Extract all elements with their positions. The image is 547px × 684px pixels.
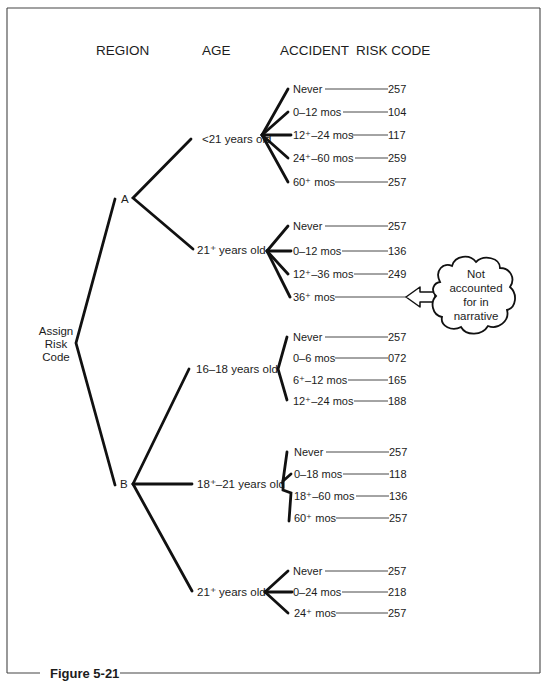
accident-label: 0–24 mos bbox=[293, 586, 342, 598]
leaf-b1-2: 6⁺–12 mos 165 bbox=[293, 374, 406, 386]
age-b1-label: 16–18 years old bbox=[196, 363, 278, 375]
age-b1-branches bbox=[278, 337, 287, 400]
accident-label: 60⁺ mos bbox=[293, 176, 336, 188]
risk-code: 257 bbox=[388, 220, 406, 232]
accident-label: 18⁺–60 mos bbox=[294, 490, 355, 502]
leaf-a2-0: Never 257 bbox=[293, 220, 406, 232]
risk-code: 118 bbox=[389, 468, 407, 480]
risk-code: 117 bbox=[388, 129, 406, 141]
risk-code: 218 bbox=[388, 586, 406, 598]
risk-code: 257 bbox=[388, 607, 406, 619]
risk-code: 257 bbox=[388, 83, 406, 95]
accident-label: 0–12 mos bbox=[293, 106, 342, 118]
risk-code: 072 bbox=[388, 352, 406, 364]
header-risk-code: RISK CODE bbox=[356, 43, 430, 58]
callout-text-line1: Not bbox=[467, 268, 486, 280]
accident-label: 0–6 mos bbox=[293, 352, 336, 364]
age-b2-branches bbox=[283, 452, 291, 521]
risk-code: 257 bbox=[389, 446, 407, 458]
callout-arrow-icon bbox=[406, 287, 435, 307]
leaf-a2-1: 0–12 mos 136 bbox=[293, 245, 406, 257]
risk-code: 188 bbox=[388, 395, 406, 407]
callout-cloud: Not accounted for in narrative bbox=[406, 257, 515, 334]
leaf-b2-1: 0–18 mos 118 bbox=[294, 468, 407, 480]
age-a1-branches bbox=[262, 89, 291, 182]
age-a2-branches bbox=[267, 226, 291, 297]
region-a-branches bbox=[133, 139, 193, 249]
age-b3-branches bbox=[265, 571, 292, 613]
region-b-branches bbox=[133, 369, 192, 591]
root-node: Assign Risk Code bbox=[39, 325, 74, 363]
header-age: AGE bbox=[202, 43, 231, 58]
accident-label: 12⁺–36 mos bbox=[293, 268, 354, 280]
root-label-line2: Risk bbox=[45, 338, 68, 350]
risk-code: 136 bbox=[389, 490, 407, 502]
leaf-b1-1: 0–6 mos 072 bbox=[293, 352, 406, 364]
leaf-b2-2: 18⁺–60 mos 136 bbox=[294, 490, 407, 502]
risk-code: 257 bbox=[388, 565, 406, 577]
accident-label: Never bbox=[293, 220, 323, 232]
accident-label: 12⁺–24 mos bbox=[293, 129, 354, 141]
age-a2-label: 21⁺ years old bbox=[197, 244, 266, 256]
accident-label: Never bbox=[294, 446, 324, 458]
risk-code: 257 bbox=[388, 331, 406, 343]
root-label-line1: Assign bbox=[39, 325, 74, 337]
column-headers: REGION AGE ACCIDENT RISK CODE bbox=[96, 43, 430, 58]
leaf-a2-3: 36⁺ mos bbox=[293, 291, 406, 303]
leaf-a1-2: 12⁺–24 mos 117 bbox=[293, 129, 406, 141]
accident-label: 0–18 mos bbox=[294, 468, 343, 480]
risk-code: 165 bbox=[388, 374, 406, 386]
risk-code: 257 bbox=[388, 176, 406, 188]
leaf-a1-4: 60⁺ mos 257 bbox=[293, 176, 406, 188]
region-a-label: A bbox=[121, 193, 129, 205]
leaf-b3-2: 24⁺ mos 257 bbox=[294, 607, 406, 619]
decision-tree-figure: Figure 5-21 REGION AGE ACCIDENT RISK COD… bbox=[0, 0, 547, 684]
accident-label: 24⁺–60 mos bbox=[293, 152, 354, 164]
accident-label: 6⁺–12 mos bbox=[293, 374, 348, 386]
risk-code: 104 bbox=[388, 106, 406, 118]
leaf-a1-3: 24⁺–60 mos 259 bbox=[293, 152, 406, 164]
figure-border bbox=[7, 8, 540, 673]
age-b3-label: 21⁺ years old bbox=[197, 586, 266, 598]
risk-code: 257 bbox=[389, 512, 407, 524]
accident-label: 12⁺–24 mos bbox=[293, 395, 354, 407]
leaf-b2-0: Never 257 bbox=[294, 446, 407, 458]
leaf-b3-0: Never 257 bbox=[293, 565, 406, 577]
region-b-label: B bbox=[120, 478, 128, 490]
risk-code: 136 bbox=[388, 245, 406, 257]
figure-caption: Figure 5-21 bbox=[50, 666, 119, 681]
accident-label: Never bbox=[293, 83, 323, 95]
accident-label: 60⁺ mos bbox=[294, 512, 337, 524]
accident-label: 0–12 mos bbox=[293, 245, 342, 257]
root-label-line3: Code bbox=[42, 351, 70, 363]
leaf-b2-3: 60⁺ mos 257 bbox=[294, 512, 407, 524]
risk-code: 259 bbox=[388, 152, 406, 164]
header-accident: ACCIDENT bbox=[280, 43, 349, 58]
accident-label: 36⁺ mos bbox=[293, 291, 336, 303]
header-region: REGION bbox=[96, 43, 149, 58]
callout-text-line3: for in bbox=[463, 296, 489, 308]
leaf-b3-1: 0–24 mos 218 bbox=[293, 586, 406, 598]
accident-label: Never bbox=[293, 565, 323, 577]
leaf-a1-0: Never 257 bbox=[293, 83, 406, 95]
accident-label: Never bbox=[293, 331, 323, 343]
accident-label: 24⁺ mos bbox=[294, 607, 337, 619]
leaf-b1-0: Never 257 bbox=[293, 331, 406, 343]
callout-text-line2: accounted bbox=[449, 282, 502, 294]
callout-text-line4: narrative bbox=[454, 310, 499, 322]
leaf-b1-3: 12⁺–24 mos 188 bbox=[293, 395, 406, 407]
risk-code: 249 bbox=[388, 268, 406, 280]
age-b2-label: 18⁺–21 years old bbox=[197, 478, 285, 490]
leaf-a1-1: 0–12 mos 104 bbox=[293, 106, 406, 118]
root-branches bbox=[76, 199, 115, 485]
leaf-a2-2: 12⁺–36 mos 249 bbox=[293, 268, 406, 280]
